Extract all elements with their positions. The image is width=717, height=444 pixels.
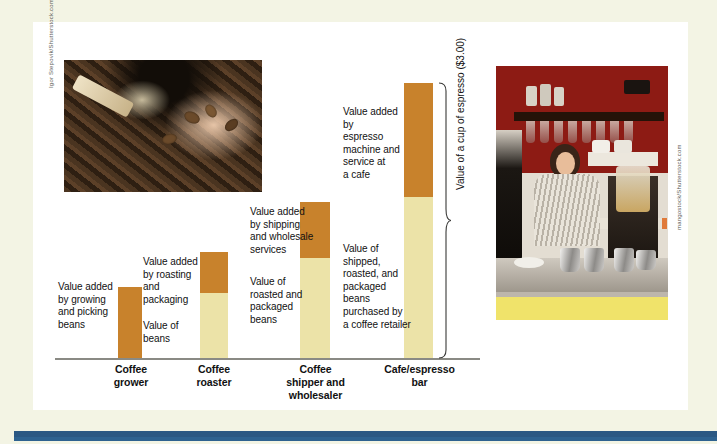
category-line: wholesaler — [263, 389, 368, 402]
annotation-line: and packaging — [143, 281, 205, 306]
annotation-grower-value-added: Value added by growing and picking beans — [58, 281, 128, 331]
annotation-line: purchased by — [343, 306, 415, 319]
total-value-bracket — [437, 82, 451, 359]
category-label-cafe-espresso-bar: Cafe/espresso bar — [368, 363, 471, 389]
annotation-line: by roasting — [143, 269, 205, 282]
annotation-line: roasted, and — [343, 268, 415, 281]
annotation-line: roasted and — [250, 289, 320, 302]
category-line: Coffee — [263, 363, 368, 376]
annotation-line: and wholesale — [250, 231, 324, 244]
category-line: roaster — [168, 376, 260, 389]
annotation-line: a cafe — [343, 169, 411, 182]
annotation-line: by growing — [58, 294, 128, 307]
category-label-coffee-shipper-wholesaler: Coffee shipper and wholesaler — [263, 363, 368, 402]
annotation-line: machine and — [343, 144, 411, 157]
annotation-line: and picking — [58, 306, 128, 319]
annotation-line: Value added — [143, 256, 205, 269]
annotation-line: service at — [343, 156, 411, 169]
annotation-line: Value of shipped, — [343, 243, 415, 268]
annotation-shipper-base-value: Value of roasted and packaged beans — [250, 276, 320, 326]
annotation-line: by shipping — [250, 219, 324, 232]
category-line: bar — [368, 376, 471, 389]
annotation-line: Value added — [58, 281, 128, 294]
annotation-line: Value of — [250, 276, 320, 289]
annotation-line: a coffee retailer — [343, 319, 415, 332]
annotation-line: espresso — [343, 131, 411, 144]
category-line: Coffee — [85, 363, 177, 376]
category-line: Cafe/espresso — [368, 363, 471, 376]
figure-root: Igor Stepovik/Shutterstock.com mangostoc… — [0, 0, 717, 444]
category-label-coffee-roaster: Coffee roaster — [168, 363, 260, 389]
annotation-cafe-value-added: Value added by espresso machine and serv… — [343, 106, 411, 182]
annotation-line: Value of beans — [143, 320, 205, 345]
annotation-cafe-base-value: Value of shipped, roasted, and packaged … — [343, 243, 415, 331]
x-axis-line — [55, 358, 480, 360]
annotation-line: packaged — [250, 301, 320, 314]
annotation-line: packaged beans — [343, 281, 415, 306]
annotation-line: beans — [250, 314, 320, 327]
annotation-line: Value added by — [343, 106, 411, 131]
annotation-line: Value added — [250, 206, 324, 219]
total-value-bracket-label: Value of a cup of espresso ($3.00) — [455, 38, 468, 190]
category-line: shipper and — [263, 376, 368, 389]
category-label-coffee-grower: Coffee grower — [85, 363, 177, 389]
annotation-roaster-base-value: Value of beans — [143, 320, 205, 345]
category-line: Coffee — [168, 363, 260, 376]
annotation-roaster-value-added: Value added by roasting and packaging — [143, 256, 205, 306]
value-added-bar-chart: Coffee grower Coffee roaster Coffee ship… — [0, 0, 717, 444]
annotation-line: services — [250, 244, 324, 257]
bottom-rule-accent — [14, 437, 717, 441]
bracket-label-text: Value of a cup of espresso ($3.00) — [455, 38, 466, 190]
annotation-shipper-value-added: Value added by shipping and wholesale se… — [250, 206, 324, 256]
annotation-line: beans — [58, 319, 128, 332]
category-line: grower — [85, 376, 177, 389]
